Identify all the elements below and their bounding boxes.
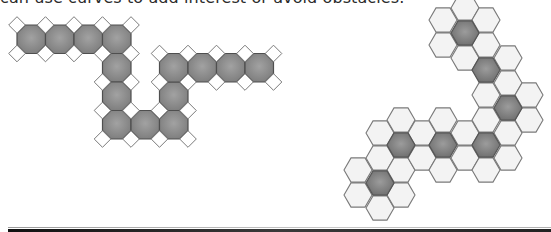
octagon-path-diagram [9,17,282,148]
tile-path-figure [0,0,551,232]
divider-line-light [8,227,551,228]
hexagon-path-diagram [344,0,543,220]
divider-line [8,229,551,232]
